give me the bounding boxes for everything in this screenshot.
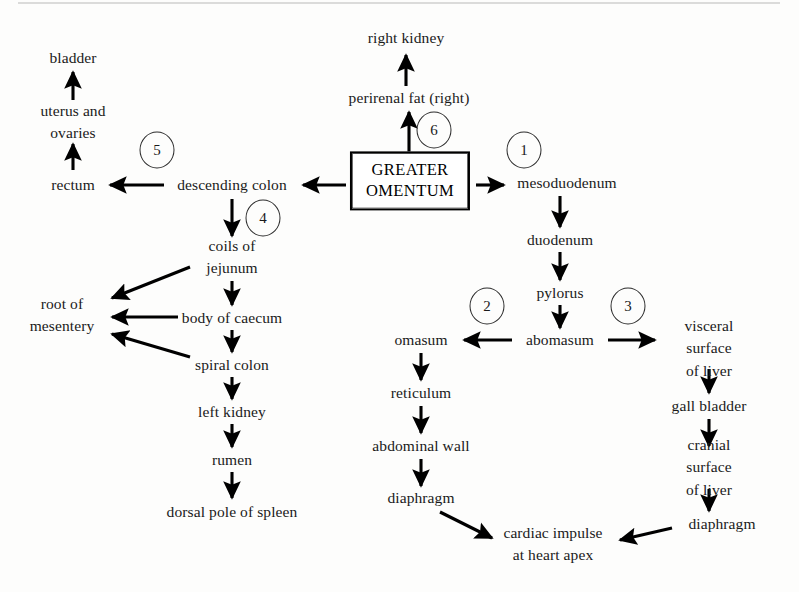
greater-omentum-box[interactable]: GREATER OMENTUM bbox=[350, 151, 470, 210]
route-number-2: 2 bbox=[470, 288, 505, 325]
node-pylorus[interactable]: pylorus bbox=[536, 282, 583, 305]
node-rumen[interactable]: rumen bbox=[212, 449, 252, 472]
scan-edge-artifact bbox=[18, 2, 780, 4]
node-cardiac-impulse[interactable]: cardiac impulse at heart apex bbox=[503, 522, 602, 567]
node-dorsal-pole-spleen[interactable]: dorsal pole of spleen bbox=[167, 501, 298, 524]
node-bladder[interactable]: bladder bbox=[49, 47, 96, 70]
node-rectum[interactable]: rectum bbox=[51, 174, 95, 197]
route-number-6: 6 bbox=[417, 112, 452, 149]
node-abomasum[interactable]: abomasum bbox=[526, 329, 594, 352]
route-number-1: 1 bbox=[507, 132, 542, 169]
node-cranial-surface-liver[interactable]: cranial surface of liver bbox=[664, 434, 754, 501]
node-spiral-colon[interactable]: spiral colon bbox=[195, 354, 269, 377]
arrow-spiral-colon-to-mesentery bbox=[112, 334, 190, 357]
node-descending-colon[interactable]: descending colon bbox=[177, 174, 287, 197]
node-uterus-ovaries[interactable]: uterus and ovaries bbox=[40, 100, 105, 145]
node-mesoduodenum[interactable]: mesoduodenum bbox=[517, 172, 616, 195]
node-perirenal-fat-right[interactable]: perirenal fat (right) bbox=[349, 87, 470, 110]
node-diaphragm-right[interactable]: diaphragm bbox=[688, 513, 755, 536]
route-number-5: 5 bbox=[140, 132, 175, 169]
node-body-of-caecum[interactable]: body of caecum bbox=[182, 307, 282, 330]
node-right-kidney[interactable]: right kidney bbox=[368, 27, 445, 50]
arrow-diaphragm-to-cardiac-impulse-left bbox=[440, 512, 492, 538]
anatomical-flow-diagram: bladderuterus and ovariesrectumdescendin… bbox=[0, 0, 799, 592]
node-reticulum[interactable]: reticulum bbox=[391, 382, 451, 405]
node-left-kidney[interactable]: left kidney bbox=[198, 401, 266, 424]
node-gall-bladder[interactable]: gall bladder bbox=[672, 395, 747, 418]
arrow-diaphragm-to-cardiac-impulse-right bbox=[620, 528, 672, 540]
node-abdominal-wall[interactable]: abdominal wall bbox=[372, 435, 469, 458]
node-root-of-mesentery[interactable]: root of mesentery bbox=[30, 293, 95, 338]
node-visceral-surface-liver[interactable]: visceral surface of liver bbox=[664, 315, 754, 382]
arrow-jejunum-to-mesentery bbox=[112, 267, 190, 298]
node-coils-of-jejunum[interactable]: coils of jejunum bbox=[206, 235, 258, 280]
node-duodenum[interactable]: duodenum bbox=[527, 229, 593, 252]
node-diaphragm-left[interactable]: diaphragm bbox=[387, 487, 454, 510]
route-number-4: 4 bbox=[246, 200, 281, 237]
node-omasum[interactable]: omasum bbox=[394, 329, 447, 352]
route-number-3: 3 bbox=[611, 288, 646, 325]
